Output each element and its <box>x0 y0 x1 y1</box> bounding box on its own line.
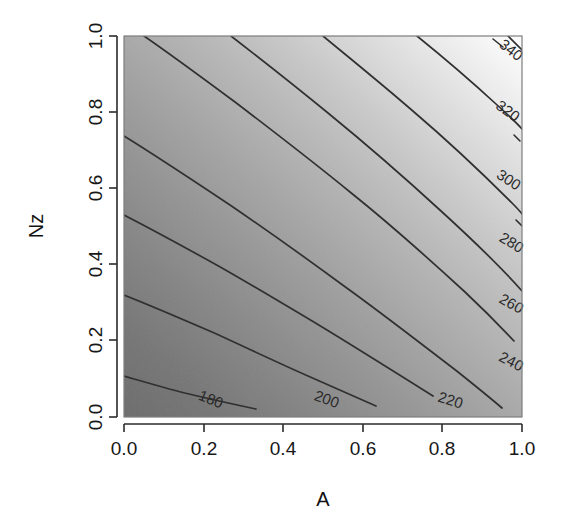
x-tick-label-0.4: 0.4 <box>270 438 297 459</box>
contour-plot-figure: 180 200 220 240 260 280 300 320 340 0.0 … <box>0 0 573 528</box>
x-tick-label-1.0: 1.0 <box>509 438 535 459</box>
y-axis-title: Nz <box>25 214 47 238</box>
x-tick-label-0.2: 0.2 <box>191 438 217 459</box>
x-tick-label-0.6: 0.6 <box>350 438 376 459</box>
y-tick-label-0.8: 0.8 <box>85 99 106 125</box>
y-tick-label-0.0: 0.0 <box>85 404 106 430</box>
x-tick-label-0.8: 0.8 <box>429 438 455 459</box>
plot-canvas: 180 200 220 240 260 280 300 320 340 0.0 … <box>0 0 573 528</box>
raster-field <box>124 36 522 417</box>
y-tick-label-1.0: 1.0 <box>85 23 106 49</box>
y-tick-label-0.2: 0.2 <box>85 327 106 353</box>
x-axis-title: A <box>316 488 330 510</box>
y-tick-label-0.6: 0.6 <box>85 175 106 201</box>
x-tick-label-0.0: 0.0 <box>111 438 137 459</box>
y-tick-label-0.4: 0.4 <box>85 250 106 277</box>
